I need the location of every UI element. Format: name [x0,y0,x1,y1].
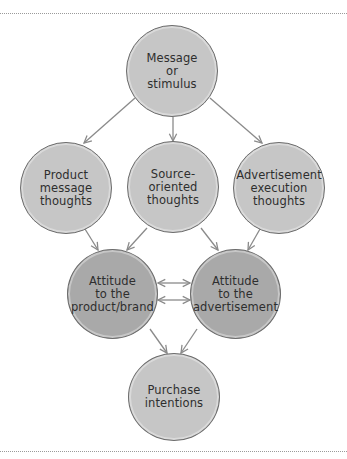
node-purchase-intentions: Purchase intentions [128,353,220,441]
node-label: Source- oriented thoughts [147,168,199,207]
arrow-product-to-brand [85,229,98,250]
arrow-ad-to-purchase [181,329,197,353]
arrow-source-to-ad [201,228,218,250]
node-label: Attitude to the advertisement [193,275,278,314]
node-label: Purchase intentions [145,384,203,410]
node-attitude-to-advertisement: Attitude to the advertisement [190,249,281,339]
arrow-brand-to-purchase [150,329,167,353]
node-product-message-thoughts: Product message thoughts [20,142,112,234]
node-advertisement-execution-thoughts: Advertisement execution thoughts [233,142,325,234]
node-label: Attitude to the product/brand [71,275,154,314]
node-source-oriented-thoughts: Source- oriented thoughts [127,141,219,233]
node-attitude-to-product-brand: Attitude to the product/brand [67,249,158,339]
arrow-execution-to-ad [248,229,260,250]
node-label: Advertisement execution thoughts [236,169,322,208]
node-label: Message or stimulus [146,52,197,91]
arrow-source-to-brand [127,228,147,250]
node-message-or-stimulus: Message or stimulus [126,25,218,117]
node-label: Product message thoughts [40,169,92,208]
arrow-message-to-execution [210,98,262,143]
arrow-message-to-product [84,98,135,143]
